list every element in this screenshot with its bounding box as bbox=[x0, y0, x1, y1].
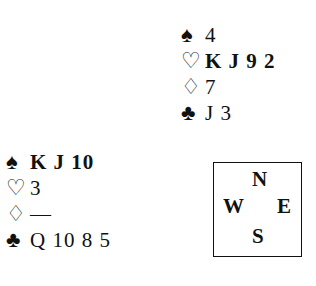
west-hearts-row: ♡ 3 bbox=[6, 175, 111, 201]
north-spades: 4 bbox=[205, 22, 217, 48]
heart-icon: ♡ bbox=[181, 48, 205, 74]
compass-south: S bbox=[252, 224, 264, 249]
north-diamonds-row: ♢ 7 bbox=[181, 74, 276, 100]
compass-east: E bbox=[277, 194, 291, 219]
west-spades-row: ♠ K J 10 bbox=[6, 149, 111, 175]
compass-north: N bbox=[252, 167, 267, 192]
compass-west: W bbox=[223, 194, 244, 219]
north-clubs-row: ♣ J 3 bbox=[181, 100, 276, 126]
north-diamonds: 7 bbox=[205, 74, 217, 100]
north-hearts-row: ♡ K J 9 2 bbox=[181, 48, 276, 74]
diamond-icon: ♢ bbox=[181, 74, 205, 100]
west-spades: K J 10 bbox=[30, 149, 94, 175]
heart-icon: ♡ bbox=[6, 175, 30, 201]
west-clubs-row: ♣ Q 10 8 5 bbox=[6, 227, 111, 253]
west-clubs: Q 10 8 5 bbox=[30, 227, 111, 253]
compass-box: N W E S bbox=[213, 162, 302, 257]
north-spades-row: ♠ 4 bbox=[181, 22, 276, 48]
club-icon: ♣ bbox=[6, 227, 30, 253]
spade-icon: ♠ bbox=[6, 149, 30, 175]
north-hand: ♠ 4 ♡ K J 9 2 ♢ 7 ♣ J 3 bbox=[181, 22, 276, 126]
diamond-icon: ♢ bbox=[6, 201, 30, 227]
west-diamonds-row: ♢ — bbox=[6, 201, 111, 227]
west-hearts: 3 bbox=[30, 175, 42, 201]
west-hand: ♠ K J 10 ♡ 3 ♢ — ♣ Q 10 8 5 bbox=[6, 149, 111, 253]
spade-icon: ♠ bbox=[181, 22, 205, 48]
club-icon: ♣ bbox=[181, 100, 205, 126]
west-diamonds: — bbox=[30, 201, 52, 227]
north-clubs: J 3 bbox=[205, 100, 232, 126]
north-hearts: K J 9 2 bbox=[205, 48, 276, 74]
